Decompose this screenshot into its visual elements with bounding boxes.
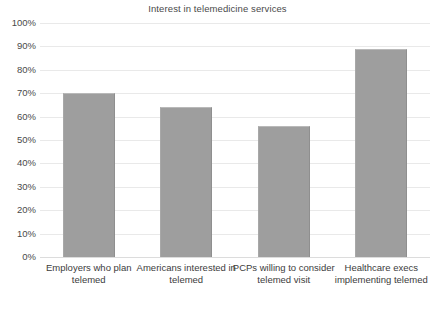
x-axis-tick-label: Americans interested in telemed [134, 262, 238, 285]
y-axis-tick-label: 30% [2, 182, 36, 192]
bar [160, 107, 212, 257]
bar-group [333, 23, 431, 257]
x-axis-tick-label: Employers who plan telemed [37, 262, 141, 285]
bar-group [138, 23, 236, 257]
bar [63, 93, 115, 257]
y-axis-tick-label: 60% [2, 112, 36, 122]
bar-group [40, 23, 138, 257]
bar [258, 126, 310, 257]
bar-chart: Interest in telemedicine services 100%90… [0, 0, 435, 309]
plot-area [40, 23, 430, 257]
y-axis-tick-label: 50% [2, 135, 36, 145]
bar [355, 49, 407, 257]
y-axis-tick-label: 20% [2, 205, 36, 215]
gridline [40, 257, 430, 258]
y-axis-tick-label: 80% [2, 65, 36, 75]
x-axis-tick-label: Healthcare execs implementing telemed [329, 262, 433, 285]
y-axis-tick-label: 70% [2, 88, 36, 98]
y-axis-tick-label: 0% [2, 252, 36, 262]
y-axis-labels: 100%90%80%70%60%50%40%30%20%10%0% [0, 0, 36, 309]
y-axis-tick-label: 10% [2, 229, 36, 239]
y-axis-tick-label: 90% [2, 41, 36, 51]
y-axis-tick-label: 40% [2, 158, 36, 168]
x-axis-tick-label: PCPs willing to consider telemed visit [232, 262, 336, 285]
bar-group [235, 23, 333, 257]
y-axis-tick-label: 100% [2, 18, 36, 28]
chart-title: Interest in telemedicine services [0, 3, 435, 14]
